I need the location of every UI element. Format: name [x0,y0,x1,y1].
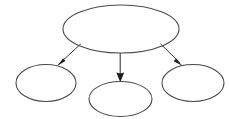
edge-root-to-right-child-arrowhead [174,58,184,66]
node-root[interactable] [63,5,179,53]
node-child-left[interactable] [16,65,76,102]
diagram-svg [0,0,229,119]
edge-root-to-middle-child-arrowhead [116,72,124,82]
node-child-right-ellipse [162,65,224,102]
node-child-middle[interactable] [89,82,152,117]
node-child-middle-ellipse [89,82,152,117]
edge-root-to-right-child[interactable] [161,44,183,66]
edge-root-to-left-child[interactable] [56,44,80,66]
node-root-ellipse [63,5,179,53]
node-child-left-ellipse [16,65,76,102]
node-child-right[interactable] [162,65,224,102]
edge-root-to-middle-child[interactable] [116,54,124,83]
diagram-canvas [0,0,229,119]
